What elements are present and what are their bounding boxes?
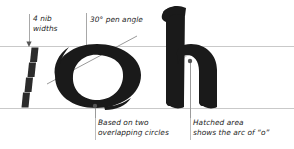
nib-widths-label: 4 nibwidths — [33, 14, 58, 33]
letter-o-outline — [55, 44, 141, 108]
calligraphy-diagram: 4 nibwidths 30° pen angle Based on twoov… — [0, 0, 294, 149]
letter-h-left-foot — [166, 98, 184, 108]
pen-angle-label-text: 30° pen angle — [90, 15, 143, 24]
nib-width-staircase — [22, 48, 39, 108]
letter-h — [162, 6, 217, 108]
circles-pointer-dot-icon — [93, 104, 97, 108]
circles-pointer — [93, 104, 97, 140]
nib-block-3 — [25, 78, 34, 93]
circles-caption-line2: overlapping circles — [98, 128, 169, 137]
letter-h-right-foot — [199, 98, 217, 108]
circles-caption: Based on twooverlapping circles — [98, 118, 169, 137]
nib-block-2 — [28, 63, 37, 78]
nib-widths-leader — [26, 14, 31, 47]
nib-widths-label-line2: widths — [33, 24, 58, 33]
hatched-caption: Hatched areashows the arc of “o” — [193, 118, 269, 137]
hatched-caption-line1: Hatched area — [193, 118, 244, 127]
pen-angle-label: 30° pen angle — [90, 15, 143, 25]
nib-block-4 — [22, 93, 31, 108]
nib-block-1 — [30, 48, 39, 63]
guide-lines — [0, 46, 294, 108]
letter-o — [55, 44, 141, 110]
hatched-pointer — [188, 59, 192, 140]
nib-widths-label-line1: 4 nib — [33, 14, 52, 23]
hatched-pointer-dot-icon — [188, 59, 192, 63]
hatched-caption-line2: shows the arc of “o” — [193, 128, 269, 137]
circles-caption-line1: Based on two — [98, 118, 149, 127]
